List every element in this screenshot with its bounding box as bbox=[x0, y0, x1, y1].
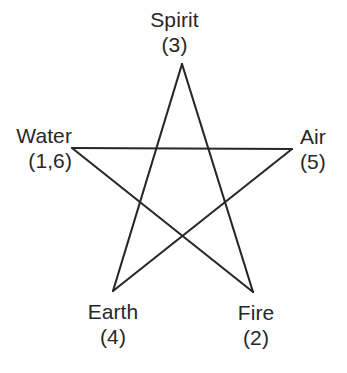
pentagram-edge-group bbox=[72, 64, 292, 292]
vertex-label-air-name: Air bbox=[300, 125, 326, 150]
edge-air-to-earth bbox=[113, 149, 292, 291]
edge-spirit-to-fire bbox=[182, 64, 253, 292]
vertex-label-water-number: (1,6) bbox=[0, 149, 72, 174]
vertex-label-water-name: Water bbox=[0, 124, 72, 149]
vertex-label-earth-name: Earth bbox=[53, 300, 173, 325]
vertex-label-air: Air (5) bbox=[300, 125, 326, 175]
vertex-label-earth-number: (4) bbox=[53, 325, 173, 350]
vertex-label-spirit-number: (3) bbox=[2, 33, 347, 58]
edge-water-to-air bbox=[72, 148, 292, 149]
edge-earth-to-spirit bbox=[113, 64, 182, 291]
vertex-label-air-number: (5) bbox=[300, 150, 326, 175]
vertex-label-spirit-name: Spirit bbox=[2, 8, 347, 33]
vertex-label-fire-number: (2) bbox=[196, 326, 316, 351]
pentagram-diagram: Spirit (3) Water (1,6) Air (5) Earth (4)… bbox=[0, 0, 347, 373]
vertex-label-fire-name: Fire bbox=[196, 301, 316, 326]
edge-fire-to-water bbox=[72, 148, 253, 292]
vertex-label-fire: Fire (2) bbox=[196, 301, 316, 351]
vertex-label-spirit: Spirit (3) bbox=[0, 8, 347, 58]
vertex-label-water: Water (1,6) bbox=[0, 124, 73, 174]
vertex-label-earth: Earth (4) bbox=[53, 300, 173, 350]
